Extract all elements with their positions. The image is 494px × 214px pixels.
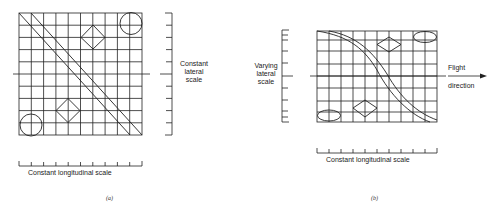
panel-b-caption: (b)	[371, 195, 378, 201]
panel-a-lateral-label-line2: lateral	[174, 68, 214, 76]
panel-a-lateral-scale	[160, 13, 172, 135]
panel-b-flight-label-line2: direction	[448, 82, 474, 90]
panel-a-caption: (a)	[106, 195, 113, 201]
panel-a-lateral-label: Constant lateral scale	[174, 60, 214, 84]
panel-b-longitudinal-label: Constant longitudinal scale	[326, 156, 410, 164]
panel-b-lateral-label-line3: scale	[246, 78, 286, 86]
diagram-canvas	[0, 0, 494, 214]
panel-a-lateral-label-line3: scale	[174, 76, 214, 84]
panel-a-grid	[13, 13, 150, 135]
flight-direction-arrow-icon	[448, 74, 487, 79]
panel-a-longitudinal-scale	[19, 161, 142, 166]
panel-b-lateral-label-line1: Varying	[246, 62, 286, 70]
panel-a-longitudinal-label: Constant longitudinal scale	[28, 169, 112, 177]
panel-a-lateral-label-line1: Constant	[174, 60, 214, 68]
panel-b-lateral-label-line2: lateral	[246, 70, 286, 78]
panel-b-lateral-label: Varying lateral scale	[246, 62, 286, 86]
panel-b-flight-label-line1: Flight	[448, 64, 465, 72]
panel-b-longitudinal-scale	[317, 148, 437, 153]
